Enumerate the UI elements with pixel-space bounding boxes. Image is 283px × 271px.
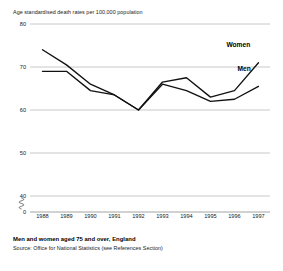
series-line-men: [42, 71, 258, 110]
series-line-women: [42, 50, 258, 110]
footer: Men and women aged 75 and over, England …: [13, 236, 275, 251]
x-tick-1997: 1997: [243, 213, 273, 219]
series-label-men: Men: [237, 65, 250, 72]
axis-break-squiggle: [19, 198, 24, 209]
footer-source: Source: Office for National Statistics (…: [13, 245, 275, 251]
footer-title: Men and women aged 75 and over, England: [13, 236, 275, 242]
gridlines: [30, 24, 270, 212]
chart-figure: Age standardised death rates per 100,000…: [0, 0, 283, 271]
series-lines: [42, 50, 258, 110]
series-label-women: Women: [226, 41, 250, 48]
x-axis: 1988198919901991199219931994199519961997: [0, 213, 283, 227]
